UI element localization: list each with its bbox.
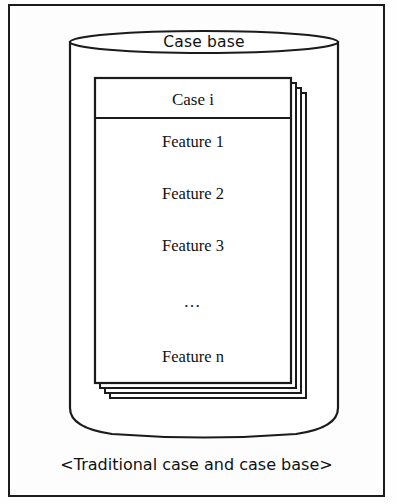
case-feature-item: Feature n — [95, 347, 291, 367]
figure-traditional-case-and-case-base: Case base Case i Feature 1 Feature 2 Fea… — [0, 0, 397, 504]
case-feature-item: Feature 2 — [95, 184, 291, 204]
case-feature-ellipsis: … — [95, 292, 291, 312]
case-card-title: Case i — [95, 86, 291, 114]
case-base-label: Case base — [70, 31, 338, 53]
case-feature-item: Feature 3 — [95, 236, 291, 256]
case-feature-item: Feature 1 — [95, 132, 291, 152]
figure-caption: <Traditional case and case base> — [12, 455, 381, 474]
case-feature-list: Feature 1 Feature 2 Feature 3 … Feature … — [95, 120, 291, 382]
